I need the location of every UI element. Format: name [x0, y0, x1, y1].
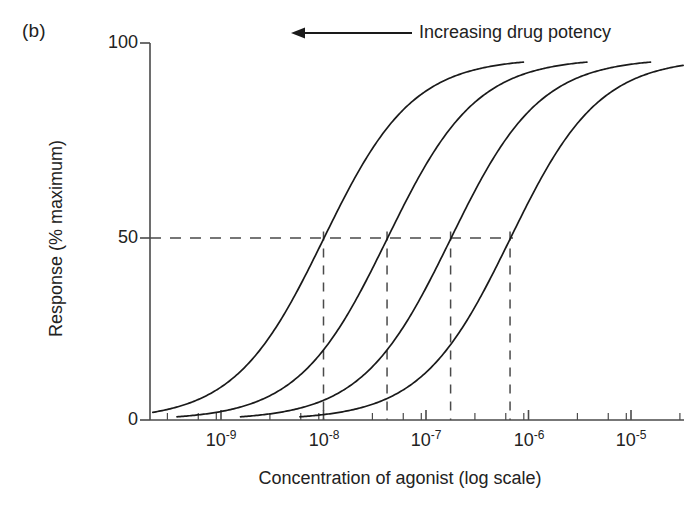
x-axis-ticks [167, 410, 680, 420]
plot-canvas [0, 0, 698, 506]
dose-response-figure: (b) Increasing drug potency Response (% … [0, 0, 698, 506]
potency-arrow-icon [291, 28, 412, 39]
dose-response-curves [153, 62, 683, 417]
ec50-vertical-dashed-lines [324, 232, 511, 421]
arrow-head [291, 28, 305, 39]
dose-response-curve-3 [240, 62, 650, 417]
dose-response-curve-4 [300, 65, 683, 416]
